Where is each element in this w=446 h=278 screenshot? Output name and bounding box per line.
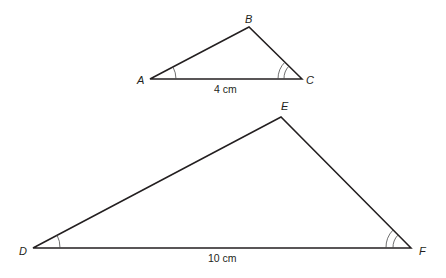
angle-mark-f-outer [386, 230, 393, 248]
angle-mark-c-inner [284, 66, 289, 79]
vertex-label-d: D [19, 245, 27, 257]
side-length-df: 10 cm [208, 252, 237, 264]
vertex-label-c: C [306, 74, 314, 86]
triangle-def-outline [33, 117, 411, 248]
triangle-abc: A B C 4 cm [136, 13, 314, 95]
triangle-def: D E F 10 cm [19, 100, 427, 264]
similar-triangles-diagram: A B C 4 cm D E F 10 cm [0, 0, 446, 278]
side-length-ac: 4 cm [214, 83, 237, 95]
angle-mark-d [57, 235, 60, 248]
angle-mark-f-inner [393, 235, 398, 248]
vertex-label-f: F [419, 245, 427, 257]
vertex-label-e: E [281, 100, 289, 112]
vertex-label-b: B [245, 13, 252, 25]
angle-mark-a [173, 67, 176, 79]
vertex-label-a: A [136, 74, 144, 86]
